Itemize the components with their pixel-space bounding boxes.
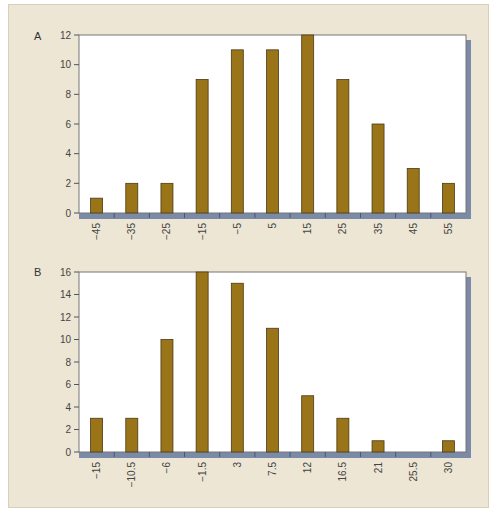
- bar: [91, 418, 103, 452]
- bar: [231, 50, 243, 213]
- bar: [302, 396, 314, 452]
- bar: [161, 183, 173, 213]
- bar: [407, 169, 419, 214]
- x-tick-label: −25: [161, 223, 172, 240]
- y-tick-label: 2: [65, 178, 71, 189]
- x-tick-label: 35: [373, 223, 384, 235]
- y-tick-label: 4: [65, 148, 71, 159]
- x-tick-label: 12: [302, 462, 313, 474]
- bar: [161, 340, 173, 453]
- figure-canvas: A024681012−45−35−25−15−551525354555B0246…: [0, 0, 496, 520]
- x-tick-label: 5: [267, 223, 278, 229]
- x-tick-label: 15: [302, 223, 313, 235]
- bar: [126, 418, 138, 452]
- bar: [91, 198, 103, 213]
- bar: [337, 418, 349, 452]
- x-tick-label: −5: [232, 223, 243, 235]
- bar: [302, 35, 314, 213]
- x-tick-label: 25: [337, 223, 348, 235]
- x-tick-label: −15: [91, 462, 102, 479]
- bar: [337, 80, 349, 214]
- x-axis-bar: [79, 452, 471, 458]
- chart-b: B0246810121416−15−10.5−6−1.537.51216.521…: [34, 266, 471, 487]
- chart-a: A024681012−45−35−25−15−551525354555: [34, 30, 471, 240]
- x-tick-label: 55: [443, 223, 454, 235]
- y-tick-label: 0: [65, 447, 71, 458]
- y-tick-label: 10: [60, 334, 72, 345]
- bar: [267, 328, 279, 452]
- x-tick-label: 45: [408, 223, 419, 235]
- bar: [442, 183, 454, 213]
- x-tick-label: −45: [91, 223, 102, 240]
- bar: [196, 272, 208, 452]
- frame-shadow-right: [466, 40, 471, 219]
- y-tick-label: 8: [65, 89, 71, 100]
- y-tick-label: 12: [60, 312, 72, 323]
- bar: [442, 441, 454, 452]
- y-tick-label: 16: [60, 267, 72, 278]
- panel-label: B: [34, 266, 41, 278]
- x-tick-label: 3: [232, 462, 243, 468]
- x-tick-label: 30: [443, 462, 454, 474]
- bar: [372, 441, 384, 452]
- x-tick-label: −10.5: [126, 462, 137, 488]
- x-axis-bar: [79, 213, 471, 219]
- x-tick-label: −35: [126, 223, 137, 240]
- y-tick-label: 14: [60, 289, 72, 300]
- x-tick-label: 21: [373, 462, 384, 474]
- y-tick-label: 2: [65, 424, 71, 435]
- bar: [126, 183, 138, 213]
- frame-shadow-right: [466, 277, 471, 458]
- x-tick-label: 7.5: [267, 462, 278, 476]
- y-tick-label: 8: [65, 357, 71, 368]
- y-tick-label: 4: [65, 402, 71, 413]
- bar: [196, 80, 208, 214]
- x-tick-label: −15: [197, 223, 208, 240]
- y-tick-label: 6: [65, 379, 71, 390]
- x-tick-label: −6: [161, 462, 172, 474]
- y-tick-label: 6: [65, 119, 71, 130]
- x-tick-label: 25.5: [408, 462, 419, 482]
- x-tick-label: −1.5: [197, 462, 208, 482]
- y-tick-label: 10: [60, 59, 72, 70]
- bar: [372, 124, 384, 213]
- bar: [267, 50, 279, 213]
- x-tick-label: 16.5: [337, 462, 348, 482]
- panel-label: A: [34, 30, 42, 42]
- y-tick-label: 0: [65, 208, 71, 219]
- y-tick-label: 12: [60, 30, 72, 41]
- bar: [231, 283, 243, 452]
